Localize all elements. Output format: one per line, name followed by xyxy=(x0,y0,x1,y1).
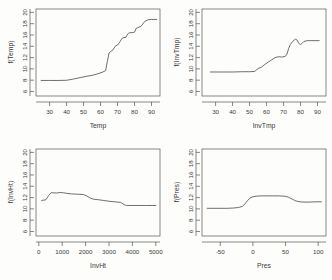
x-ticks: -50050100 xyxy=(216,242,324,255)
x-tick-label: 60 xyxy=(97,108,104,115)
x-tick-label: 30 xyxy=(212,108,219,115)
x-axis-title: Pres xyxy=(257,262,272,269)
y-tick-label: 8 xyxy=(21,218,28,222)
y-tick-label: 20 xyxy=(187,8,194,15)
plot-frame xyxy=(202,9,326,96)
y-tick-label: 6 xyxy=(21,229,28,233)
x-tick-label: -50 xyxy=(216,248,226,255)
y-axis-title: f(InvTmp) xyxy=(173,37,181,66)
x-tick-label: 50 xyxy=(282,248,289,255)
plot-frame xyxy=(36,9,160,96)
y-tick-label: 16 xyxy=(21,31,28,38)
plot-area-temp xyxy=(36,9,160,96)
panel-invtmp: 68101214161820 f(InvTmp) 30405060708090 … xyxy=(166,0,332,140)
x-tick-label: 5000 xyxy=(149,248,163,255)
x-tick-label: 0 xyxy=(251,248,255,255)
plot-invht: 68101214161820 f(InvHt) 0100020003000400… xyxy=(0,140,166,280)
panel-invht: 68101214161820 f(InvHt) 0100020003000400… xyxy=(0,140,166,280)
y-axis-title: f(Temp) xyxy=(7,40,15,63)
gam-partial-effect-panel-grid: 68101214161820 f(Temp) 30405060708090 Te… xyxy=(0,0,332,280)
y-axis-title: f(InvHt) xyxy=(7,181,15,203)
curve-temp xyxy=(41,19,157,80)
y-tick-label: 6 xyxy=(21,89,28,93)
y-tick-label: 14 xyxy=(21,42,28,49)
y-tick-label: 20 xyxy=(187,148,194,155)
y-tick-label: 16 xyxy=(187,171,194,178)
y-tick-label: 10 xyxy=(21,65,28,72)
x-tick-label: 40 xyxy=(63,108,70,115)
y-tick-label: 16 xyxy=(187,31,194,38)
y-tick-label: 14 xyxy=(21,182,28,189)
y-axis-invtmp: 68101214161820 f(InvTmp) xyxy=(173,8,200,96)
x-tick-label: 3000 xyxy=(102,248,116,255)
y-tick-label: 20 xyxy=(21,148,28,155)
y-tick-label: 14 xyxy=(187,182,194,189)
x-axis-invtmp: 30405060708090 InvTmp xyxy=(202,102,326,130)
panel-temp: 68101214161820 f(Temp) 30405060708090 Te… xyxy=(0,0,166,140)
plot-frame xyxy=(202,149,326,236)
x-axis-pres: -50050100 Pres xyxy=(202,242,326,269)
x-tick-label: 70 xyxy=(114,108,121,115)
plot-area-invtmp xyxy=(202,9,326,96)
x-ticks: 30405060708090 xyxy=(46,102,155,115)
curve-pres xyxy=(207,196,321,208)
y-tick-label: 6 xyxy=(187,229,194,233)
y-axis-pres: 68101214161820 f(Pres) xyxy=(173,148,200,236)
y-tick-label: 8 xyxy=(187,218,194,222)
x-tick-label: 50 xyxy=(80,108,87,115)
x-tick-label: 70 xyxy=(280,108,287,115)
x-ticks: 30405060708090 xyxy=(212,102,321,115)
x-axis-title: Temp xyxy=(90,122,107,130)
y-tick-label: 12 xyxy=(21,54,28,61)
y-tick-label: 10 xyxy=(187,205,194,212)
y-tick-label: 20 xyxy=(21,8,28,15)
x-tick-label: 0 xyxy=(37,248,41,255)
plot-area-invht xyxy=(36,149,160,236)
y-ticks: 68101214161820 xyxy=(187,8,200,93)
curve-invtmp xyxy=(210,39,319,72)
plot-invtmp: 68101214161820 f(InvTmp) 30405060708090 … xyxy=(166,0,332,140)
y-axis-temp: 68101214161820 f(Temp) xyxy=(7,8,34,96)
y-tick-label: 18 xyxy=(187,160,194,167)
y-ticks: 68101214161820 xyxy=(187,148,200,233)
y-tick-label: 10 xyxy=(187,65,194,72)
plot-temp: 68101214161820 f(Temp) 30405060708090 Te… xyxy=(0,0,166,140)
x-axis-title: InvHt xyxy=(90,262,106,269)
x-tick-label: 80 xyxy=(297,108,304,115)
y-tick-label: 12 xyxy=(187,54,194,61)
plot-pres: 68101214161820 f(Pres) -50050100 Pres xyxy=(166,140,332,280)
x-tick-label: 40 xyxy=(229,108,236,115)
y-tick-label: 12 xyxy=(187,194,194,201)
x-tick-label: 80 xyxy=(131,108,138,115)
y-axis-invht: 68101214161820 f(InvHt) xyxy=(7,148,34,236)
x-tick-label: 90 xyxy=(314,108,321,115)
y-tick-label: 18 xyxy=(21,160,28,167)
x-tick-label: 90 xyxy=(148,108,155,115)
x-ticks: 010002000300040005000 xyxy=(37,242,163,255)
panel-pres: 68101214161820 f(Pres) -50050100 Pres xyxy=(166,140,332,280)
y-tick-label: 18 xyxy=(187,20,194,27)
curve-invht xyxy=(42,193,156,206)
y-tick-label: 8 xyxy=(21,78,28,82)
x-tick-label: 100 xyxy=(313,248,324,255)
x-tick-label: 1000 xyxy=(55,248,69,255)
x-axis-title: InvTmp xyxy=(253,122,276,130)
y-tick-label: 8 xyxy=(187,78,194,82)
y-ticks: 68101214161820 xyxy=(21,8,34,93)
x-tick-label: 4000 xyxy=(126,248,140,255)
y-ticks: 68101214161820 xyxy=(21,148,34,233)
y-tick-label: 14 xyxy=(187,42,194,49)
y-tick-label: 12 xyxy=(21,194,28,201)
x-tick-label: 30 xyxy=(46,108,53,115)
y-tick-label: 6 xyxy=(187,89,194,93)
y-axis-title: f(Pres) xyxy=(173,182,181,202)
plot-area-pres xyxy=(202,149,326,236)
x-axis-invht: 010002000300040005000 InvHt xyxy=(36,242,163,269)
x-axis-temp: 30405060708090 Temp xyxy=(36,102,160,130)
y-tick-label: 10 xyxy=(21,205,28,212)
y-tick-label: 18 xyxy=(21,20,28,27)
y-tick-label: 16 xyxy=(21,171,28,178)
x-tick-label: 60 xyxy=(263,108,270,115)
x-tick-label: 50 xyxy=(246,108,253,115)
x-tick-label: 2000 xyxy=(79,248,93,255)
